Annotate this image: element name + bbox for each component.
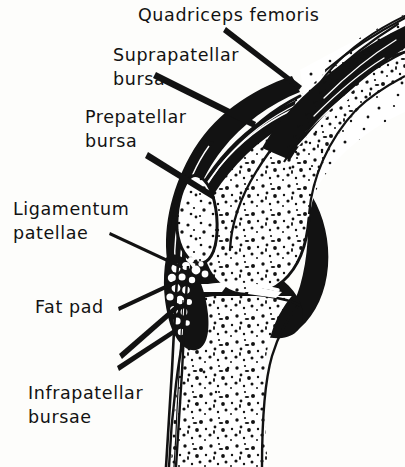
label-suprapatellar-bursa-line2: bursa [113, 69, 165, 89]
label-prepatellar-bursa-line2: bursa [85, 131, 137, 151]
label-fat-pad: Fat pad [35, 297, 104, 317]
label-suprapatellar-bursa-line1: Suprapatellar [113, 45, 239, 65]
knee-anatomy-figure: Quadriceps femoris Suprapatellar bursa P… [0, 0, 405, 467]
label-ligamentum-patellae-line1: Ligamentum [13, 199, 129, 219]
label-quadriceps-femoris: Quadriceps femoris [138, 5, 320, 25]
label-prepatellar-bursa-line1: Prepatellar [85, 107, 187, 127]
label-infrapatellar-bursae-line2: bursae [28, 407, 92, 427]
knee-anatomy-diagram: Quadriceps femoris Suprapatellar bursa P… [0, 0, 405, 467]
label-ligamentum-patellae-line2: patellae [13, 223, 88, 243]
label-infrapatellar-bursae-line1: Infrapatellar [28, 383, 143, 403]
